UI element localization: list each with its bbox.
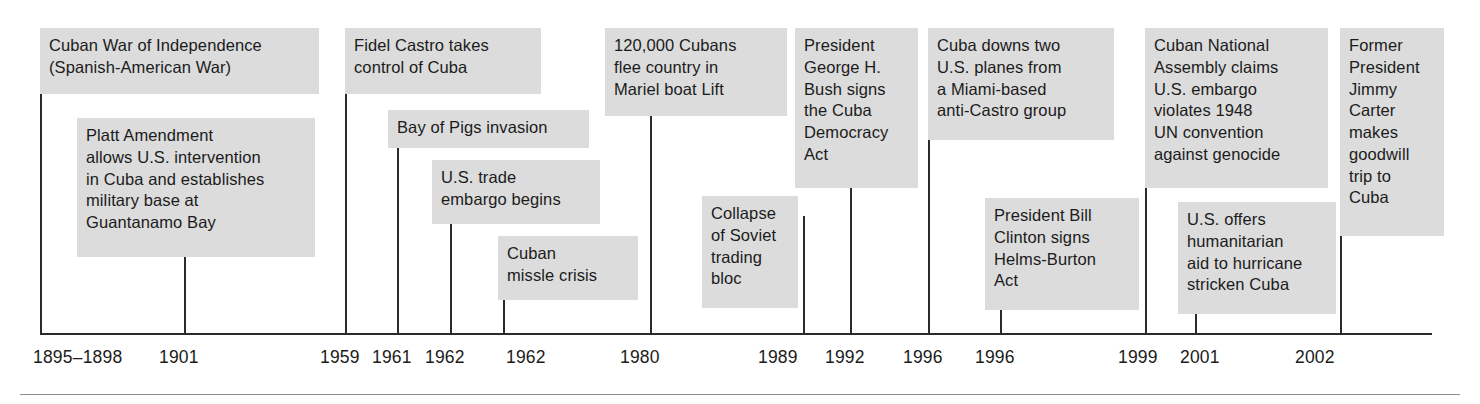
event-box-helms-burton-act[interactable]: President Bill Clinton signs Helms-Burto…: [985, 198, 1139, 310]
timeline-figure: Cuban War of Independence (Spanish-Ameri…: [0, 0, 1480, 404]
event-box-cuban-national-assembly-claims[interactable]: Cuban National Assembly claims U.S. emba…: [1145, 28, 1328, 188]
date-label-cuba-downs-two-us-planes: 1996: [903, 347, 943, 368]
event-stem-mariel-boat-lift: [650, 116, 652, 333]
date-label-us-humanitarian-aid: 2001: [1180, 347, 1220, 368]
page-rule: [20, 394, 1460, 395]
date-label-helms-burton-act: 1996: [975, 347, 1015, 368]
date-label-jimmy-carter-goodwill-trip: 2002: [1295, 347, 1335, 368]
date-label-platt-amendment: 1901: [159, 347, 199, 368]
event-stem-platt-amendment: [184, 257, 186, 333]
event-stem-cuba-democracy-act: [850, 188, 852, 333]
event-box-bay-of-pigs-invasion[interactable]: Bay of Pigs invasion: [388, 110, 589, 148]
date-label-collapse-of-soviet-trading-bloc: 1989: [758, 347, 798, 368]
event-box-cuba-downs-two-us-planes[interactable]: Cuba downs two U.S. planes from a Miami-…: [928, 28, 1114, 140]
event-stem-jimmy-carter-goodwill-trip: [1340, 236, 1342, 333]
event-box-collapse-of-soviet-trading-bloc[interactable]: Collapse of Soviet trading bloc: [702, 196, 798, 308]
date-label-cuban-national-assembly-claims: 1999: [1118, 347, 1158, 368]
event-box-cuban-war-of-independence[interactable]: Cuban War of Independence (Spanish-Ameri…: [40, 28, 319, 94]
timeline-axis-line: [40, 333, 1432, 335]
event-box-us-humanitarian-aid[interactable]: U.S. offers humanitarian aid to hurrican…: [1178, 202, 1336, 314]
date-label-mariel-boat-lift: 1980: [620, 347, 660, 368]
event-stem-cuban-missile-crisis: [503, 300, 505, 333]
event-stem-fidel-castro-takes-control: [345, 94, 347, 333]
event-box-jimmy-carter-goodwill-trip[interactable]: Former President Jimmy Carter makes good…: [1340, 28, 1444, 236]
event-stem-cuban-war-of-independence: [40, 94, 42, 333]
event-box-mariel-boat-lift[interactable]: 120,000 Cubans flee country in Mariel bo…: [605, 28, 787, 116]
event-box-us-trade-embargo[interactable]: U.S. trade embargo begins: [432, 160, 600, 224]
date-label-cuban-missile-crisis: 1962: [506, 347, 546, 368]
event-stem-bay-of-pigs-invasion: [397, 148, 399, 333]
date-label-cuban-war-of-independence: 1895–1898: [33, 347, 122, 368]
date-label-cuba-democracy-act: 1992: [825, 347, 865, 368]
event-stem-cuba-downs-two-us-planes: [928, 140, 930, 333]
event-box-cuba-democracy-act[interactable]: President George H. Bush signs the Cuba …: [795, 28, 918, 188]
date-label-bay-of-pigs-invasion: 1961: [372, 347, 412, 368]
date-label-us-trade-embargo: 1962: [425, 347, 465, 368]
event-box-platt-amendment[interactable]: Platt Amendment allows U.S. intervention…: [77, 118, 315, 257]
event-stem-us-trade-embargo: [450, 224, 452, 333]
event-box-cuban-missile-crisis[interactable]: Cuban missle crisis: [498, 236, 638, 300]
event-stem-us-humanitarian-aid: [1195, 314, 1197, 333]
event-stem-helms-burton-act: [1000, 310, 1002, 333]
event-stem-collapse-of-soviet-trading-bloc: [803, 216, 805, 333]
event-box-fidel-castro-takes-control[interactable]: Fidel Castro takes control of Cuba: [345, 28, 541, 94]
date-label-fidel-castro-takes-control: 1959: [320, 347, 360, 368]
event-stem-cuban-national-assembly-claims: [1145, 188, 1147, 333]
